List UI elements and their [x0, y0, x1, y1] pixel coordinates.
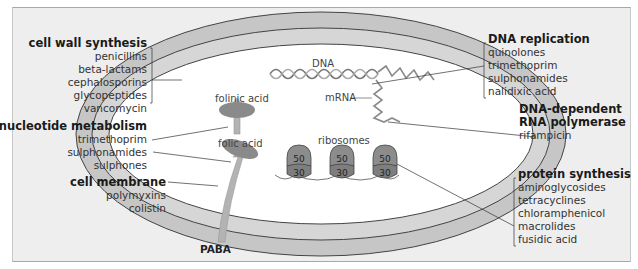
cell-wall-synthesis-group: cell wall synthesis penicillins beta-lac…: [29, 37, 147, 115]
ribosomes-label: ribosomes: [318, 135, 370, 146]
svg-text:30: 30: [293, 168, 305, 178]
protein-synthesis-group: protein synthesis aminoglycosides tetrac…: [518, 168, 631, 246]
svg-text:50: 50: [293, 154, 305, 164]
mrna-label: mRNA: [325, 92, 356, 103]
drug-chloramphenicol: chloramphenicol: [518, 207, 631, 220]
folic-acid-label: folic acid: [218, 138, 263, 149]
paba-label: PABA: [200, 243, 232, 255]
protein-synthesis-heading: protein synthesis: [518, 168, 631, 181]
drug-trimethoprim: trimethoprim: [0, 133, 147, 146]
drug-tetracyclines: tetracyclines: [518, 194, 631, 207]
drug-cephalosporins: cephalosporins: [29, 76, 147, 89]
cell-wall-synthesis-heading: cell wall synthesis: [29, 37, 147, 50]
drug-sulphonamides: sulphonamides: [488, 72, 590, 85]
drug-macrolides: macrolides: [518, 220, 631, 233]
svg-text:50: 50: [379, 154, 391, 164]
dna-replication-group: DNA replication quinolones trimethoprim …: [488, 33, 590, 98]
dna-label: DNA: [312, 58, 334, 69]
folinic-acid-label: folinic acid: [215, 93, 269, 104]
drug-quinolones: quinolones: [488, 46, 590, 59]
drug-sulphonamides: sulphonamides: [0, 146, 147, 159]
svg-text:30: 30: [336, 168, 348, 178]
cell-membrane-heading: cell membrane: [70, 176, 166, 189]
rna-polymerase-group: DNA-dependent RNA polymerase rifampicin: [519, 103, 626, 142]
nucleotide-metabolism-group: nucleotide metabolism trimethoprim sulph…: [0, 120, 147, 172]
drug-vancomycin: vancomycin: [29, 102, 147, 115]
cell-membrane-group: cell membrane polymyxins colistin: [70, 176, 166, 215]
dna-replication-heading: DNA replication: [488, 33, 590, 46]
nucleotide-metabolism-heading: nucleotide metabolism: [0, 120, 147, 133]
drug-aminoglycosides: aminoglycosides: [518, 181, 631, 194]
drug-nalidixic-acid: nalidixic acid: [488, 85, 590, 98]
svg-text:30: 30: [379, 168, 391, 178]
drug-sulphones: sulphones: [0, 159, 147, 172]
drug-trimethoprim: trimethoprim: [488, 59, 590, 72]
drug-beta-lactams: beta-lactams: [29, 63, 147, 76]
rna-polymerase-heading-line2: RNA polymerase: [519, 116, 626, 129]
drug-polymyxins: polymyxins: [70, 189, 166, 202]
svg-text:50: 50: [336, 154, 348, 164]
drug-rifampicin: rifampicin: [519, 129, 626, 142]
drug-colistin: colistin: [70, 202, 166, 215]
drug-fusidic-acid: fusidic acid: [518, 233, 631, 246]
drug-glycopeptides: glycopeptides: [29, 89, 147, 102]
enzyme-dhfr: [219, 102, 255, 118]
drug-penicillins: penicillins: [29, 50, 147, 63]
